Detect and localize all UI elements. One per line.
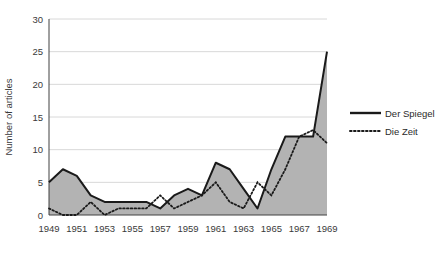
legend-label-die-zeit: Die Zeit [385,126,418,137]
y-tick-label-15: 15 [32,112,43,123]
x-tick-label-1959: 1959 [177,223,198,234]
x-tick-label-1951: 1951 [66,223,87,234]
legend-label-der-spiegel: Der Spiegel [385,108,435,119]
y-tick-label-10: 10 [32,144,43,155]
x-tick-label-1955: 1955 [122,223,143,234]
chart-container: 302520151050 194919511953195519571959196… [0,0,445,254]
y-tick-label-0: 0 [38,210,43,221]
x-tick-label-1957: 1957 [150,223,171,234]
x-tick-label-1963: 1963 [233,223,254,234]
x-tick-label-1961: 1961 [205,223,226,234]
x-tick-label-1949: 1949 [38,223,59,234]
x-tick-label-1965: 1965 [261,223,282,234]
y-tick-label-25: 25 [32,46,43,57]
x-tick-label-1969: 1969 [316,223,337,234]
y-axis-title: Number of articles [3,78,14,155]
x-tick-label-1953: 1953 [94,223,115,234]
y-tick-labels: 302520151050 [32,14,43,221]
y-tick-label-5: 5 [38,177,43,188]
x-tick-label-1967: 1967 [289,223,310,234]
line-area-chart: 302520151050 194919511953195519571959196… [0,0,445,254]
y-tick-label-30: 30 [32,14,43,25]
y-tick-label-20: 20 [32,79,43,90]
chart-legend: Der Spiegel Die Zeit [350,108,435,137]
x-tick-labels: 1949195119531955195719591961196319651967… [38,223,337,234]
